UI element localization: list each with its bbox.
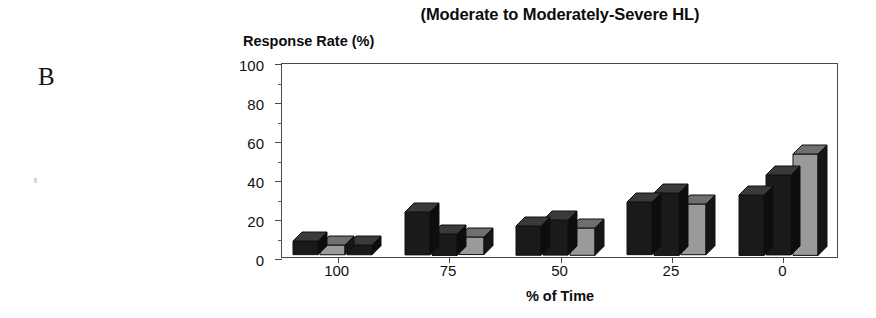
- x-tick-label-100: 100: [324, 262, 349, 279]
- y-tick-40: 40: [275, 181, 282, 182]
- y-tick-minor-10: [278, 240, 282, 241]
- x-tick-label-0: 0: [778, 262, 786, 279]
- bar-shape: [516, 217, 552, 257]
- y-tick-100: 100: [275, 64, 282, 65]
- y-tick-label-60: 60: [247, 135, 264, 152]
- x-tick-label-75: 75: [440, 262, 457, 279]
- x-tick-label-25: 25: [663, 262, 680, 279]
- bar-group-75-series-1: [405, 214, 430, 257]
- y-tick-minor-30: [278, 201, 282, 202]
- bar-shape: [293, 232, 329, 257]
- bar-shape: [405, 203, 441, 257]
- panel-label-b: B: [38, 64, 55, 89]
- y-tick-0: 0: [275, 259, 282, 260]
- y-tick-20: 20: [275, 220, 282, 221]
- y-tick-label-80: 80: [247, 96, 264, 113]
- bar-shape: [739, 186, 775, 257]
- bar-shape: [627, 193, 663, 257]
- chart-title: (Moderate to Moderately-Severe HL): [281, 5, 839, 24]
- y-tick-label-0: 0: [256, 252, 264, 269]
- plot-area: 020406080100: [281, 63, 838, 258]
- y-tick-60: 60: [275, 142, 282, 143]
- scan-artifact: [34, 178, 37, 183]
- bar-group-100-series-1: [293, 243, 318, 257]
- y-tick-label-40: 40: [247, 174, 264, 191]
- chart-page: B (Moderate to Moderately-Severe HL) Res…: [0, 0, 876, 318]
- y-axis-label: Response Rate (%): [243, 33, 374, 49]
- x-tick-label-50: 50: [551, 262, 568, 279]
- y-tick-label-20: 20: [247, 213, 264, 230]
- y-tick-minor-50: [278, 162, 282, 163]
- bar-group-0-series-1: [739, 197, 764, 257]
- y-tick-label-100: 100: [239, 57, 264, 74]
- bar-group-25-series-1: [627, 204, 652, 257]
- y-tick-80: 80: [275, 103, 282, 104]
- y-tick-minor-70: [278, 123, 282, 124]
- x-axis-label: % of Time: [281, 288, 839, 304]
- bar-group-50-series-1: [516, 228, 541, 257]
- y-tick-minor-90: [278, 84, 282, 85]
